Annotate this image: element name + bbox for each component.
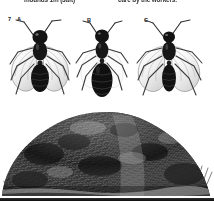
caption-left-text: mounds 1m (3aft) xyxy=(24,0,75,4)
ant-winged-male-icon xyxy=(130,18,210,110)
ant-dealate-queen-icon xyxy=(74,18,130,110)
ant-winged-queen-icon xyxy=(6,18,74,110)
caption-right-text: care by the workers. xyxy=(118,0,177,4)
figure-page: mounds 1m (3aft) care by the workers. 7 … xyxy=(0,0,214,201)
ant-mound-photograph xyxy=(0,108,214,201)
caption-strip: mounds 1m (3aft) care by the workers. xyxy=(0,0,214,9)
